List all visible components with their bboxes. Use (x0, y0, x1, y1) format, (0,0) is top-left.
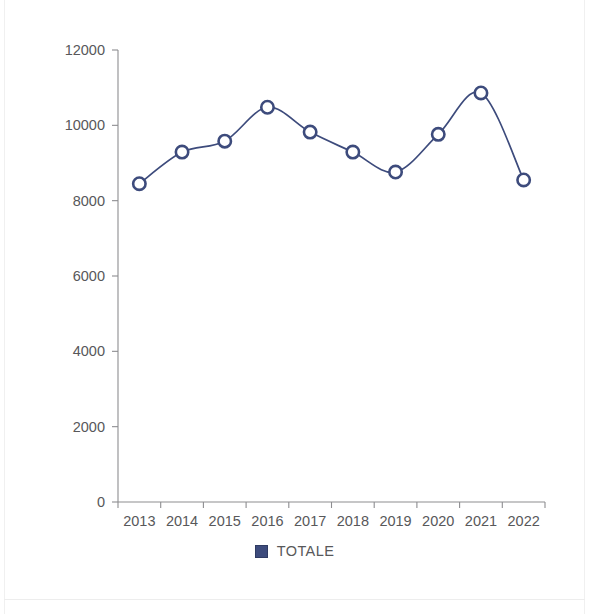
x-axis-tick-labels: 2013201420152016201720182019202020212022 (123, 513, 540, 529)
chart-legend: TOTALE (0, 543, 589, 559)
y-tick-label: 10000 (65, 117, 105, 133)
x-tick-label: 2013 (123, 513, 155, 529)
data-point-marker (176, 146, 188, 158)
x-tick-label: 2015 (209, 513, 241, 529)
x-tick-label: 2014 (166, 513, 198, 529)
y-tick-label: 2000 (73, 419, 105, 435)
data-point-marker (304, 126, 316, 138)
x-tick-label: 2021 (465, 513, 497, 529)
data-point-marker (475, 87, 487, 99)
x-tick-label: 2017 (294, 513, 326, 529)
x-tick-label: 2018 (337, 513, 369, 529)
line-chart-figure: 020004000600080001000012000 201320142015… (0, 0, 589, 614)
data-point-marker (432, 128, 444, 140)
series-markers-totale (133, 87, 530, 190)
data-series-totale (133, 87, 530, 190)
data-point-marker (347, 146, 359, 158)
legend-swatch-totale (255, 545, 268, 558)
data-point-marker (133, 178, 145, 190)
y-tick-label: 0 (97, 494, 105, 510)
y-tick-label: 12000 (65, 42, 105, 58)
x-tick-label: 2019 (379, 513, 411, 529)
data-point-marker (389, 166, 401, 178)
data-point-marker (261, 101, 273, 113)
y-tick-label: 8000 (73, 193, 105, 209)
x-axis-ticks (118, 502, 545, 508)
chart-canvas: 020004000600080001000012000 201320142015… (0, 0, 589, 614)
x-tick-label: 2022 (508, 513, 540, 529)
y-axis-tick-labels: 020004000600080001000012000 (65, 42, 105, 510)
series-line-totale (139, 92, 523, 184)
y-axis: 020004000600080001000012000 (65, 42, 118, 510)
x-tick-label: 2016 (251, 513, 283, 529)
y-axis-ticks (112, 50, 118, 502)
y-tick-label: 4000 (73, 343, 105, 359)
x-axis: 2013201420152016201720182019202020212022 (118, 502, 545, 529)
page-canvas: 020004000600080001000012000 201320142015… (0, 0, 589, 614)
y-tick-label: 6000 (73, 268, 105, 284)
data-point-marker (219, 135, 231, 147)
x-tick-label: 2020 (422, 513, 454, 529)
legend-label-totale: TOTALE (277, 543, 334, 559)
data-point-marker (517, 174, 529, 186)
